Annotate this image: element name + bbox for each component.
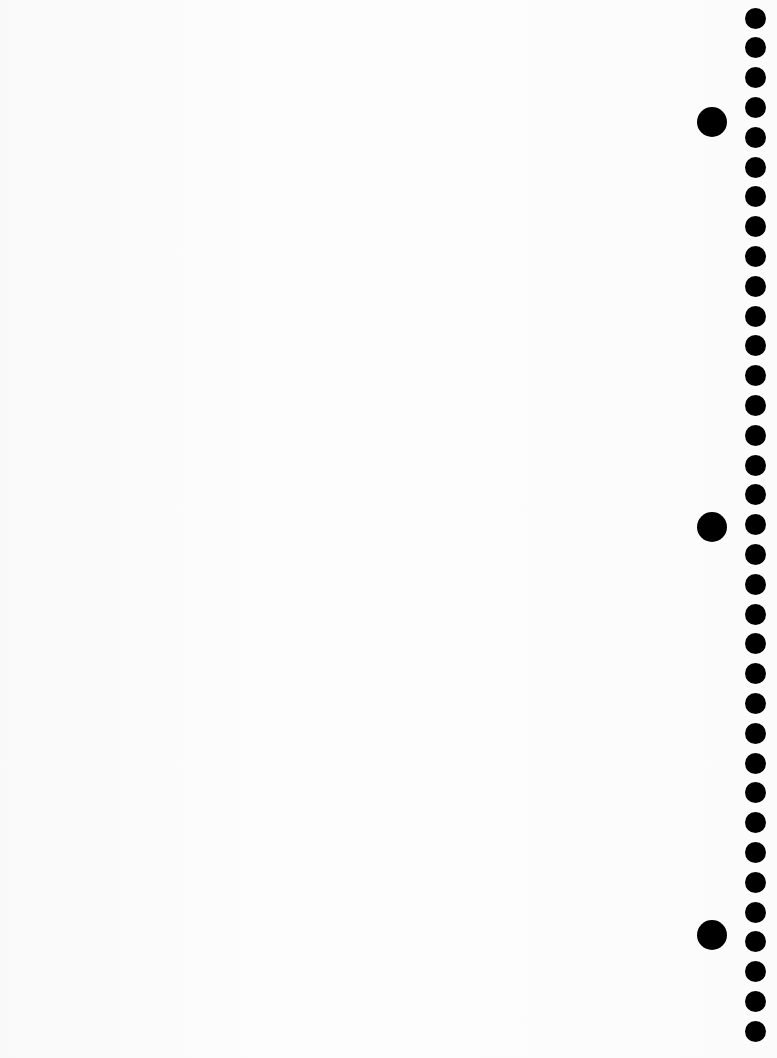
- binder-hole-small: [745, 693, 766, 714]
- binder-hole-small: [745, 604, 766, 625]
- binder-hole-small: [745, 782, 766, 803]
- blank-notebook-page: [0, 0, 777, 1058]
- binder-hole-small: [745, 931, 766, 952]
- binder-hole-small: [745, 723, 766, 744]
- binder-hole-small: [745, 67, 766, 88]
- binder-hole-small: [745, 991, 766, 1012]
- binder-hole-small: [745, 425, 766, 446]
- binder-hole-small: [745, 544, 766, 565]
- binder-hole-small: [745, 842, 766, 863]
- binder-hole-small: [745, 812, 766, 833]
- binder-hole-small: [745, 306, 766, 327]
- binder-hole-small: [745, 127, 766, 148]
- binder-hole-small: [745, 365, 766, 386]
- binder-hole-large: [697, 512, 727, 542]
- binder-hole-small: [745, 633, 766, 654]
- binder-hole-small: [745, 961, 766, 982]
- binder-hole-small: [745, 753, 766, 774]
- binder-hole-small: [745, 157, 766, 178]
- binder-hole-small: [745, 872, 766, 893]
- binder-hole-small: [745, 514, 766, 535]
- binder-hole-small: [745, 484, 766, 505]
- binder-hole-small: [745, 37, 766, 58]
- binder-hole-small: [745, 574, 766, 595]
- binder-hole-small: [745, 902, 766, 923]
- binder-hole-small: [745, 1021, 766, 1042]
- binder-hole-small: [745, 216, 766, 237]
- binder-hole-small: [745, 455, 766, 476]
- binder-hole-small: [745, 246, 766, 267]
- binder-hole-small: [745, 335, 766, 356]
- binder-hole-small: [745, 276, 766, 297]
- binder-hole-large: [697, 920, 727, 950]
- binder-hole-small: [745, 395, 766, 416]
- binder-hole-small: [745, 663, 766, 684]
- binder-hole-small: [745, 97, 766, 118]
- binder-hole-small: [745, 186, 766, 207]
- binder-hole-small: [745, 8, 766, 29]
- binder-hole-large: [697, 107, 727, 137]
